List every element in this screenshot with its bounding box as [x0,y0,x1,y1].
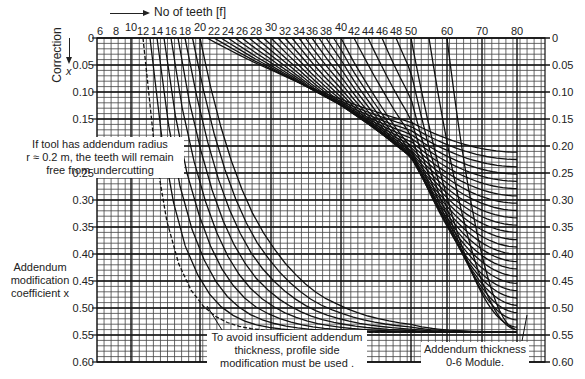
y-tick-label-left: 0.55 [64,329,94,341]
correction-label-group: Correction [46,31,60,81]
y-tick-label-left: 0.50 [64,302,94,314]
y-tick-label-right: 0.45 [552,275,573,287]
arrow-right-icon [110,13,148,14]
y-tick-label-left: 0.35 [64,221,94,233]
x-axis-title-group: No of teeth [f] [110,6,226,18]
y-tick-label-left: 0.05 [64,59,94,71]
y-tick-label-right: 0.60 [552,356,573,368]
x-axis-title: No of teeth [f] [154,5,226,19]
addendum-thickness-note: Addendum thickness 0-6 Module. [421,342,529,370]
y-tick-label-right: 0.05 [552,59,573,71]
undercut-note: If tool has addendum radius r ≈ 0.2 m, t… [16,137,184,178]
y-tick-label-left: 0.25 [64,167,94,179]
note-line: 0-6 Module. [421,356,529,369]
x-tick-label: 60 [437,25,457,37]
x-tick-label: 50 [401,25,421,37]
y-axis-title-line: modification [8,274,72,287]
y-tick-label-left: 0.60 [64,356,94,368]
y-axis-title-line: Addendum [8,261,72,274]
y-axis-title: Addendum modification coefficient x [8,261,72,300]
y-tick-label-left: 0.15 [64,113,94,125]
y-tick-label-right: 0.25 [552,167,573,179]
note-line: thickness, profile side [207,344,367,357]
y-tick-label-left: 0.30 [64,194,94,206]
nomogram-chart [0,0,585,379]
y-tick-label-right: 0.55 [552,329,573,341]
note-line: Addendum thickness [421,343,529,356]
y-tick-label-right: 0 [552,32,558,44]
note-line: r ≈ 0.2 m, the teeth will remain [16,151,184,164]
y-tick-label-left: 0.10 [64,86,94,98]
x-tick-label: 70 [472,25,492,37]
note-line: If tool has addendum radius [16,138,184,151]
y-tick-label-right: 0.50 [552,302,573,314]
note-line: free from undercutting [16,164,184,177]
y-tick-label-right: 0.10 [552,86,573,98]
y-tick-label-left: 0 [64,32,94,44]
profile-modification-note: To avoid insufficient addendum thickness… [207,330,367,371]
y-axis-title-line: coefficient x [8,287,72,300]
x-tick-label: 80 [507,25,527,37]
y-tick-label-left: 0.45 [64,275,94,287]
y-tick-label-right: 0.20 [552,140,573,152]
y-tick-label-right: 0.35 [552,221,573,233]
note-line: To avoid insufficient addendum [207,331,367,344]
y-tick-label-right: 0.40 [552,248,573,260]
y-tick-label-right: 0.30 [552,194,573,206]
correction-label: Correction [51,27,63,82]
y-tick-label-right: 0.15 [552,113,573,125]
note-line: modification must be used . [207,357,367,370]
y-tick-label-left: 0.40 [64,248,94,260]
